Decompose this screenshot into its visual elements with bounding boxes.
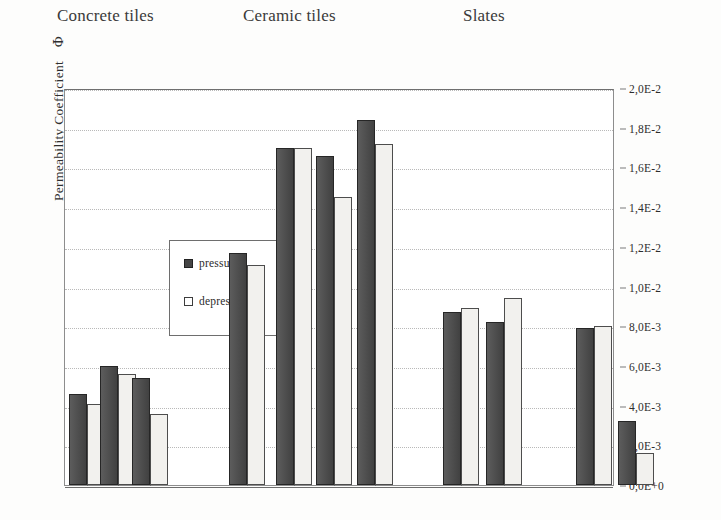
bar-pressure xyxy=(276,148,294,485)
bar-pressure xyxy=(132,378,150,485)
permeability-bar-chart-figure: Concrete tilesCeramic tilesSlates Permea… xyxy=(0,0,721,520)
bar-pressure xyxy=(69,394,87,485)
bar-depression xyxy=(375,144,393,485)
legend: pressuredepression xyxy=(169,240,285,336)
bar-depression xyxy=(636,453,654,485)
legend-swatch-pressure-icon xyxy=(184,259,193,268)
bar-pressure xyxy=(100,366,118,485)
bar-pressure xyxy=(618,421,636,485)
bar-pressure xyxy=(357,120,375,485)
y-tick-mark xyxy=(620,128,626,129)
y-tick-mark xyxy=(620,406,626,407)
y-tick-mark xyxy=(620,366,626,367)
bar-depression xyxy=(504,298,522,485)
bar-depression xyxy=(461,308,479,485)
bar-pressure xyxy=(229,253,247,485)
group-heading-ceramic-tiles: Ceramic tiles xyxy=(243,6,336,26)
y-tick-mark xyxy=(620,168,626,169)
y-tick-label: 8,0E-3 xyxy=(629,321,661,333)
group-heading-concrete-tiles: Concrete tiles xyxy=(57,6,154,26)
bar-depression xyxy=(594,326,612,485)
y-tick-mark xyxy=(620,208,626,209)
y-tick-label: 1,4E-2 xyxy=(629,202,661,214)
y-tick-mark xyxy=(620,89,626,90)
bar-depression xyxy=(294,148,312,485)
y-tick-mark xyxy=(620,486,626,487)
y-tick-mark xyxy=(620,287,626,288)
group-headings: Concrete tilesCeramic tilesSlates xyxy=(0,0,721,46)
legend-swatch-depression-icon xyxy=(184,297,193,306)
y-tick-mark xyxy=(620,327,626,328)
phi-symbol: Φ xyxy=(50,36,66,57)
plot-area: pressuredepression xyxy=(64,89,614,486)
bar-series-container xyxy=(65,90,613,485)
group-heading-slates: Slates xyxy=(463,6,505,26)
bar-depression xyxy=(150,414,168,485)
bar-pressure xyxy=(443,312,461,485)
y-tick-label: 2,0E-2 xyxy=(629,83,661,95)
bar-pressure xyxy=(576,328,594,485)
bar-depression xyxy=(334,197,352,485)
y-tick-label: 1,8E-2 xyxy=(629,123,661,135)
bar-depression xyxy=(247,265,265,485)
y-tick-label: 1,6E-2 xyxy=(629,162,661,174)
bar-pressure xyxy=(486,322,504,485)
y-tick-label: 1,2E-2 xyxy=(629,242,661,254)
y-tick-label: 6,0E-3 xyxy=(629,361,661,373)
y-tick-mark xyxy=(620,247,626,248)
gridline-0,0E+0 xyxy=(65,487,613,488)
y-tick-label: 1,0E-2 xyxy=(629,282,661,294)
bar-pressure xyxy=(316,156,334,486)
y-tick-label: 4,0E-3 xyxy=(629,401,661,413)
